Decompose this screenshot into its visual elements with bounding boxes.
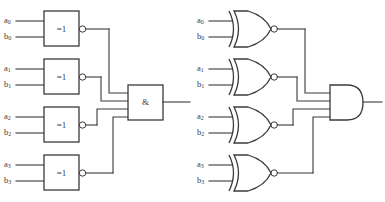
right-route-3 [313, 117, 330, 173]
left-label-a0: a0 [4, 15, 11, 25]
left-xnor-gate-2[interactable]: =1 a2 b2 [4, 107, 128, 142]
left-and-label: & [142, 97, 149, 107]
right-xnor-bubble-1 [271, 74, 277, 80]
right-route-0 [305, 29, 330, 93]
right-xnor-bubble-3 [271, 170, 277, 176]
left-route-0 [109, 29, 128, 93]
left-xnor-bubble-0 [79, 26, 85, 32]
left-xnor-bubble-3 [79, 170, 85, 176]
right-xnor-bubble-0 [271, 26, 277, 32]
right-label-a3: a3 [197, 159, 204, 169]
right-label-b0: b0 [197, 31, 204, 41]
right-xnor-body-1 [234, 59, 271, 95]
right-label-a0: a0 [197, 15, 204, 25]
right-label-b3: b3 [197, 175, 204, 185]
right-xnor-backarc-1 [229, 59, 234, 95]
left-xnor-bubble-1 [79, 74, 85, 80]
right-xnor-gate-2[interactable]: a2 b2 [197, 107, 330, 143]
left-route-3 [113, 117, 128, 173]
right-label-b2: b2 [197, 127, 204, 137]
right-xnor-body-2 [234, 107, 271, 143]
right-xnor-backarc-2 [229, 107, 234, 143]
left-label-b1: b1 [4, 79, 11, 89]
left-label-b3: b3 [4, 175, 11, 185]
left-label-b2: b2 [4, 127, 11, 137]
right-and-gate[interactable] [330, 85, 382, 120]
right-xnor-backarc-0 [229, 11, 234, 47]
circuit-svg: =1 a0 b0 =1 a1 b1 [0, 0, 385, 202]
left-label-a1: a1 [4, 63, 11, 73]
left-and-gate[interactable]: & [128, 85, 190, 120]
right-xnor-body-3 [234, 155, 271, 191]
right-route-1 [297, 77, 330, 101]
circuit-diagram-canvas: =1 a0 b0 =1 a1 b1 [0, 0, 385, 202]
right-xnor-gate-1[interactable]: a1 b1 [197, 59, 330, 101]
left-xnor-label-3: =1 [57, 168, 67, 178]
right-xnor-body-0 [234, 11, 271, 47]
left-xnor-bubble-2 [79, 122, 85, 128]
left-label-b0: b0 [4, 31, 11, 41]
right-label-a2: a2 [197, 111, 204, 121]
right-xnor-backarc-3 [229, 155, 234, 191]
left-label-a3: a3 [4, 159, 11, 169]
right-variant-ansi: a0 b0 a1 b1 [197, 11, 382, 191]
right-label-a1: a1 [197, 63, 204, 73]
right-xnor-bubble-2 [271, 122, 277, 128]
right-label-b1: b1 [197, 79, 204, 89]
left-xnor-label-0: =1 [57, 24, 67, 34]
left-label-a2: a2 [4, 111, 11, 121]
left-variant-iec: =1 a0 b0 =1 a1 b1 [4, 11, 190, 190]
right-and-body [330, 85, 363, 120]
left-route-1 [101, 77, 128, 101]
left-xnor-label-1: =1 [57, 72, 67, 82]
left-xnor-label-2: =1 [57, 120, 67, 130]
